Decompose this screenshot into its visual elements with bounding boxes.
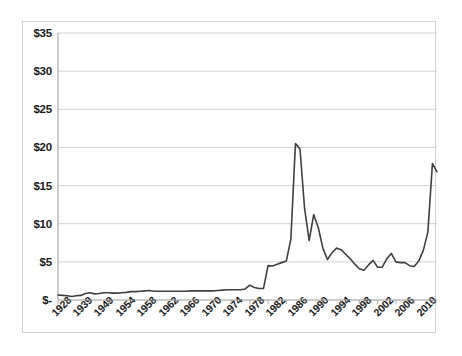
gridlines [58, 33, 437, 262]
x-tick-marks [58, 300, 432, 304]
price-line [58, 144, 437, 297]
axis-lines [58, 33, 437, 300]
plot-area [0, 0, 462, 356]
chart-container: $35 $30 $25 $20 $15 $10 $5 $- 1928 1939 … [0, 0, 462, 356]
